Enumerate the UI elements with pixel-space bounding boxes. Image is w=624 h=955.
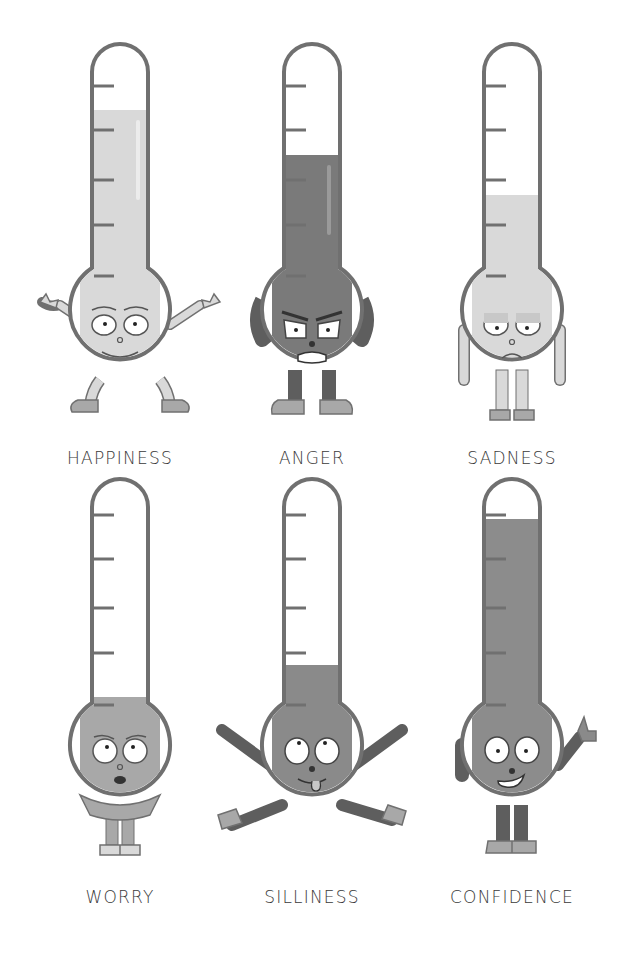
thermometer-anger-illustration — [212, 40, 412, 480]
label-anger: ANGER — [212, 448, 412, 468]
label-happiness: HAPPINESS — [20, 448, 220, 468]
thermometer-worry: WORRY — [20, 475, 220, 915]
thermometer-confidence-illustration — [412, 475, 612, 915]
thermometer-sadness-illustration — [412, 40, 612, 480]
label-confidence: CONFIDENCE — [412, 887, 612, 907]
thermometer-confidence: CONFIDENCE — [412, 475, 612, 915]
thermometer-silliness-illustration — [212, 475, 412, 915]
thermometer-worry-illustration — [20, 475, 220, 915]
thermometer-happiness: HAPPINESS — [20, 40, 220, 480]
thermometer-sadness: SADNESS — [412, 40, 612, 480]
thermometer-happiness-illustration — [20, 40, 220, 480]
thermometer-anger: ANGER — [212, 40, 412, 480]
thermometer-silliness: SILLINESS — [212, 475, 412, 915]
label-silliness: SILLINESS — [212, 887, 412, 907]
label-worry: WORRY — [20, 887, 220, 907]
label-sadness: SADNESS — [412, 448, 612, 468]
